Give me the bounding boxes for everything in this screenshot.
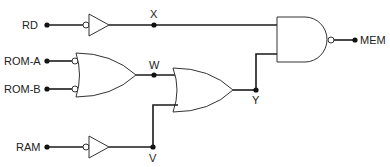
rom-a-label: ROM-A [4, 55, 41, 67]
ram-label: RAM [16, 141, 40, 153]
nand-gate-group: MEM [277, 17, 386, 62]
mem-label: MEM [360, 34, 386, 46]
y-to-nand-wire [256, 54, 277, 90]
v-label: V [149, 152, 157, 164]
mem-terminal [352, 37, 357, 42]
or2-gate [173, 68, 233, 112]
w-label: W [149, 59, 160, 71]
nand-output-bubble [328, 37, 334, 43]
or1-gate [76, 53, 136, 97]
logic-circuit-diagram: RD X MEM ROM-A ROM-B W Y [0, 0, 390, 167]
ram-buffer-gate [89, 136, 109, 158]
w-node [151, 72, 156, 77]
x-node [151, 22, 156, 27]
rom-a-inverter-bubble [72, 58, 78, 64]
ram-inverter-bubble [83, 144, 89, 150]
nand-gate [277, 17, 327, 62]
ram-input-group: RAM V [16, 105, 178, 164]
rom-b-inverter-bubble [72, 86, 78, 92]
rom-b-label: ROM-B [4, 83, 41, 95]
or1-group: ROM-A ROM-B W [4, 53, 178, 97]
y-label: Y [252, 94, 260, 106]
rd-label: RD [22, 19, 38, 31]
or2-group: Y [173, 54, 277, 112]
x-label: X [150, 8, 158, 20]
rd-inverter-bubble [83, 22, 89, 28]
rd-input-group: RD X [22, 8, 277, 36]
rd-buffer-gate [89, 14, 109, 36]
